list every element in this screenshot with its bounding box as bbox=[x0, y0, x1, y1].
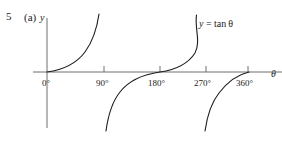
tangent-graph-plot bbox=[0, 0, 282, 142]
tan-branch-second bbox=[106, 15, 198, 131]
figure-page: 5 (a) y θ y = tan θ 0° 90° 180° 270° 360… bbox=[0, 0, 282, 142]
tan-branch-third bbox=[205, 72, 249, 131]
tan-branch-first bbox=[47, 14, 99, 72]
